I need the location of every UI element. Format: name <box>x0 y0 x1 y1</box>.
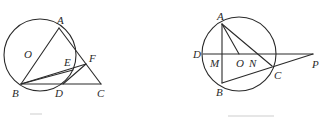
label-c: C <box>274 69 282 81</box>
label-b: B <box>12 87 19 99</box>
label-m: M <box>209 57 220 69</box>
label-n: N <box>248 57 257 69</box>
label-a: A <box>56 14 64 26</box>
label-c: C <box>97 87 105 99</box>
segment-ac <box>222 24 272 66</box>
label-p: P <box>311 58 319 70</box>
caption-smudge-2 <box>228 115 274 117</box>
label-d: D <box>54 87 63 99</box>
label-e: E <box>63 56 71 68</box>
figure-2: A D M O N C B P <box>192 10 319 98</box>
label-a: A <box>216 10 224 22</box>
label-d: D <box>192 48 201 60</box>
figure-1: A O E F B D C <box>4 14 105 99</box>
label-o: O <box>24 48 32 60</box>
label-o: O <box>236 57 244 69</box>
geometry-diagram: A O E F B D C A D M O N C B P <box>0 0 321 119</box>
label-f: F <box>88 52 96 64</box>
caption-smudge-1 <box>30 113 42 115</box>
segment-ao <box>222 24 239 54</box>
circle-o <box>4 19 76 91</box>
label-b: B <box>216 86 223 98</box>
